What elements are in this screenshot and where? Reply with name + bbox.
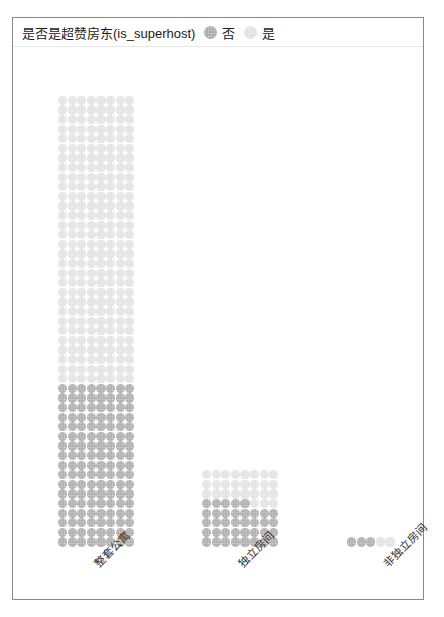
- data-dot: [106, 518, 115, 527]
- data-dot: [87, 326, 96, 335]
- data-dot: [116, 307, 125, 316]
- data-dot: [58, 365, 67, 374]
- data-dot: [58, 259, 67, 268]
- data-dot: [106, 384, 115, 393]
- data-dot: [221, 499, 230, 508]
- bar-整套公寓[interactable]: [58, 96, 135, 547]
- data-dot: [125, 201, 134, 210]
- data-dot: [125, 499, 134, 508]
- data-dot: [68, 365, 77, 374]
- data-dot: [87, 96, 96, 105]
- data-dot: [125, 345, 134, 354]
- data-dot: [77, 269, 86, 278]
- data-dot: [106, 153, 115, 162]
- data-dot: [106, 221, 115, 230]
- data-dot: [96, 230, 105, 239]
- data-dot: [68, 393, 77, 402]
- data-dot: [58, 403, 67, 412]
- data-dot: [106, 297, 115, 306]
- data-dot: [231, 470, 240, 479]
- data-dot: [77, 470, 86, 479]
- data-dot: [212, 528, 221, 537]
- data-dot: [260, 480, 269, 489]
- data-dot: [116, 269, 125, 278]
- data-dot: [202, 537, 211, 546]
- legend-entry-no[interactable]: 否: [204, 23, 235, 42]
- data-dot: [87, 345, 96, 354]
- data-dot: [87, 403, 96, 412]
- data-dot: [106, 432, 115, 441]
- data-dot: [106, 355, 115, 364]
- data-dot: [77, 384, 86, 393]
- data-dot: [106, 393, 115, 402]
- data-dot: [106, 240, 115, 249]
- data-dot: [68, 374, 77, 383]
- data-dot: [125, 374, 134, 383]
- data-dot: [357, 537, 366, 546]
- data-dot: [116, 461, 125, 470]
- data-dot: [68, 163, 77, 172]
- data-dot: [106, 269, 115, 278]
- data-dot: [68, 201, 77, 210]
- data-dot: [125, 278, 134, 287]
- data-dot: [116, 355, 125, 364]
- data-dot: [116, 317, 125, 326]
- data-dot: [96, 499, 105, 508]
- data-dot: [87, 307, 96, 316]
- data-dot: [96, 384, 105, 393]
- data-dot: [221, 480, 230, 489]
- data-dot: [125, 182, 134, 191]
- data-dot: [125, 297, 134, 306]
- data-dot: [87, 537, 96, 546]
- data-dot: [77, 221, 86, 230]
- data-dot: [68, 528, 77, 537]
- data-dot: [106, 413, 115, 422]
- legend-entry-no-label: 否: [222, 23, 235, 42]
- data-dot: [68, 297, 77, 306]
- data-dot: [125, 518, 134, 527]
- data-dot: [231, 528, 240, 537]
- data-dot: [125, 307, 134, 316]
- data-dot: [58, 384, 67, 393]
- data-dot: [366, 537, 375, 546]
- data-dot: [68, 96, 77, 105]
- legend-entry-yes[interactable]: 是: [244, 23, 275, 42]
- data-dot: [250, 470, 259, 479]
- data-dot: [68, 221, 77, 230]
- data-dot: [106, 201, 115, 210]
- data-dot: [68, 336, 77, 345]
- data-dot: [212, 470, 221, 479]
- data-dot: [68, 182, 77, 191]
- data-dot: [221, 537, 230, 546]
- data-dot: [116, 384, 125, 393]
- data-dot: [125, 393, 134, 402]
- data-dot: [96, 317, 105, 326]
- data-dot: [231, 489, 240, 498]
- data-dot: [87, 470, 96, 479]
- data-dot: [96, 125, 105, 134]
- data-dot: [125, 144, 134, 153]
- data-dot: [77, 96, 86, 105]
- data-dot: [68, 230, 77, 239]
- data-dot: [376, 537, 385, 546]
- data-dot: [106, 451, 115, 460]
- data-dot: [106, 345, 115, 354]
- data-dot: [58, 115, 67, 124]
- data-dot: [77, 489, 86, 498]
- data-dot: [240, 518, 249, 527]
- data-dot: [87, 230, 96, 239]
- data-dot: [106, 192, 115, 201]
- data-dot: [125, 105, 134, 114]
- data-dot: [269, 518, 278, 527]
- data-dot: [125, 480, 134, 489]
- data-dot: [202, 489, 211, 498]
- data-dot: [87, 115, 96, 124]
- data-dot: [77, 230, 86, 239]
- data-dot: [58, 230, 67, 239]
- data-dot: [68, 451, 77, 460]
- data-dot: [106, 374, 115, 383]
- data-dot: [77, 259, 86, 268]
- data-dot: [125, 451, 134, 460]
- data-dot: [240, 489, 249, 498]
- data-dot: [106, 182, 115, 191]
